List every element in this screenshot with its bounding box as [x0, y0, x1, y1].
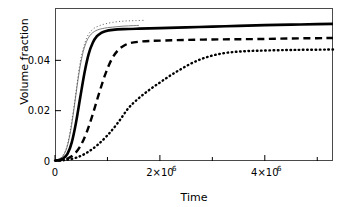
- x-tick-label-0: 0: [52, 167, 58, 178]
- plot-frame: [56, 9, 333, 161]
- tick-labels: 02×1064×10600.020.04: [28, 55, 282, 178]
- y-axis-label-container: Volume fraction: [13, 7, 32, 117]
- x-tick-exponent-2: 6: [172, 165, 177, 173]
- x-tick-label-4: 4×10: [251, 167, 278, 178]
- axes-box: [56, 9, 333, 161]
- series-dashed: [55, 38, 333, 161]
- series-fine-dotted-overshoot: [55, 20, 144, 160]
- volume-fraction-time-plot: 02×1064×10600.020.04: [0, 0, 341, 207]
- x-axis-label: Time: [181, 191, 208, 204]
- y-tick-label-0: 0: [44, 156, 50, 167]
- chart-figure: 02×1064×10600.020.04 Volume fraction Tim…: [0, 0, 341, 207]
- x-tick-exponent-4: 6: [277, 165, 282, 173]
- data-series: [55, 20, 333, 160]
- y-axis-label: Volume fraction: [18, 18, 31, 105]
- x-tick-label-2: 2×10: [146, 167, 173, 178]
- x-axis-label-container: Time: [55, 186, 333, 205]
- series-thick-solid: [55, 24, 333, 161]
